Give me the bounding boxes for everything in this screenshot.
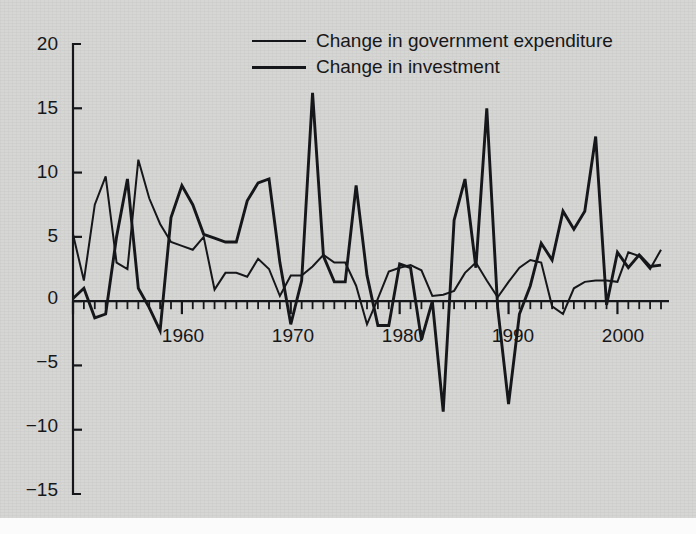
y-tick-label-10: 10 xyxy=(6,161,58,183)
series-line-investment xyxy=(73,93,661,412)
page-bottom-margin xyxy=(0,518,696,534)
legend-label-government-expenditure: Change in government expenditure xyxy=(316,30,613,52)
legend-line-icon-government-expenditure xyxy=(252,40,306,42)
y-tick-label-neg10: −10 xyxy=(6,415,58,437)
x-tick-label-2000: 2000 xyxy=(583,325,663,347)
chart-figure: Change in government expenditure Change … xyxy=(0,0,696,534)
x-tick-label-1980: 1980 xyxy=(363,325,443,347)
line-chart-plot xyxy=(0,0,696,534)
x-tick-label-1990: 1990 xyxy=(473,325,553,347)
legend-label-investment: Change in investment xyxy=(316,56,500,78)
y-tick-label-neg15: −15 xyxy=(6,479,58,501)
series-line-government-expenditure xyxy=(73,160,661,325)
y-tick-label-15: 15 xyxy=(6,97,58,119)
x-tick-label-1960: 1960 xyxy=(143,325,223,347)
chart-legend: Change in government expenditure Change … xyxy=(252,28,682,80)
y-tick-label-5: 5 xyxy=(6,225,58,247)
x-tick-label-1970: 1970 xyxy=(253,325,333,347)
legend-line-icon-investment xyxy=(252,66,306,69)
y-axis-spine xyxy=(73,44,81,494)
y-tick-label-20: 20 xyxy=(6,33,58,55)
y-tick-label-0: 0 xyxy=(6,287,58,309)
y-tick-label-neg5: −5 xyxy=(6,351,58,373)
legend-entry-government-expenditure: Change in government expenditure xyxy=(252,28,682,54)
legend-entry-investment: Change in investment xyxy=(252,54,682,80)
